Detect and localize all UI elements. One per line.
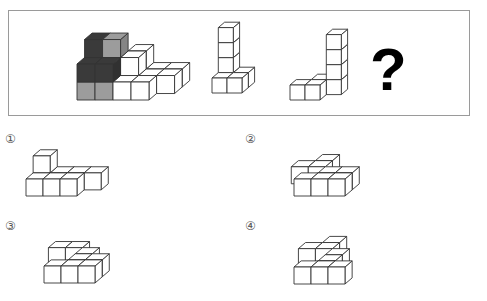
- combined-shape: [77, 33, 190, 100]
- option-3-label[interactable]: ③: [5, 219, 16, 233]
- question-mark: ?: [370, 40, 407, 100]
- option-2-label[interactable]: ②: [245, 132, 256, 146]
- piece-b: [290, 29, 348, 100]
- option-4-label[interactable]: ④: [245, 219, 256, 233]
- option-1-shape: [26, 150, 108, 196]
- option-3-shape: [44, 242, 109, 283]
- combined-shape-figure: [0, 0, 487, 301]
- piece-a: [212, 22, 255, 93]
- option-2-shape: [291, 155, 359, 196]
- option-1-label[interactable]: ①: [5, 132, 16, 146]
- option-4-shape: [294, 236, 352, 284]
